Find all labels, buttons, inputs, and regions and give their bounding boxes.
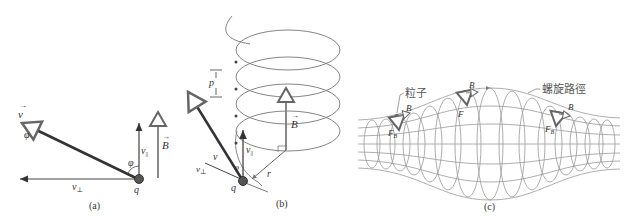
label-b3: B xyxy=(568,102,574,112)
label-r: r xyxy=(267,168,271,179)
label-q: q xyxy=(134,184,139,195)
label-v-perp: v⊥ xyxy=(72,181,83,194)
label-v: v xyxy=(213,151,218,162)
force-vector-2 xyxy=(465,94,467,105)
vector-arrow-glyph: → xyxy=(162,132,170,141)
b-vector-3 xyxy=(559,114,570,116)
label-fb1: FB xyxy=(387,128,398,139)
label-q: q xyxy=(231,182,236,193)
helix-loop xyxy=(236,84,340,124)
charge-q xyxy=(135,175,144,184)
label-b2: B xyxy=(469,80,475,90)
helix-start xyxy=(226,16,250,44)
label-particle: 粒子 xyxy=(405,86,427,100)
label-v-par: v|| xyxy=(141,145,148,158)
vector-arrow-glyph: → xyxy=(19,101,27,110)
panel-a: v → φ φ v|| v⊥ B → q (a) xyxy=(18,101,170,212)
panel-c-vectors: 粒子 螺旋路徑 B B B F FB FB (c) xyxy=(387,80,586,213)
b-vector-2 xyxy=(466,92,478,93)
field-line xyxy=(358,152,620,164)
helix-loop xyxy=(236,111,340,151)
field-line xyxy=(358,168,620,200)
velocity-vector xyxy=(22,123,138,179)
force-vector-1 xyxy=(397,118,399,130)
caption-c: (c) xyxy=(484,201,495,213)
caption-b: (b) xyxy=(276,198,288,210)
label-phi-angle: φ xyxy=(128,157,134,168)
label-phi: φ xyxy=(24,129,30,140)
label-f: F xyxy=(457,109,464,119)
helix-loop xyxy=(236,57,340,97)
caption-a: (a) xyxy=(89,200,100,212)
label-phi: φ xyxy=(234,162,239,172)
panel-c xyxy=(358,88,620,200)
vector-arrow-glyph: → xyxy=(291,111,299,120)
physics-diagram: v → φ φ v|| v⊥ B → q (a) xyxy=(0,0,631,216)
charge-q xyxy=(239,177,248,186)
helix-loop xyxy=(236,30,340,70)
label-v-perp: v⊥ xyxy=(196,164,207,176)
label-b1: B xyxy=(406,103,412,113)
label-p: p xyxy=(208,77,214,88)
label-spiral-path: 螺旋路徑 xyxy=(542,82,586,96)
label-fb3: FB xyxy=(544,124,555,135)
